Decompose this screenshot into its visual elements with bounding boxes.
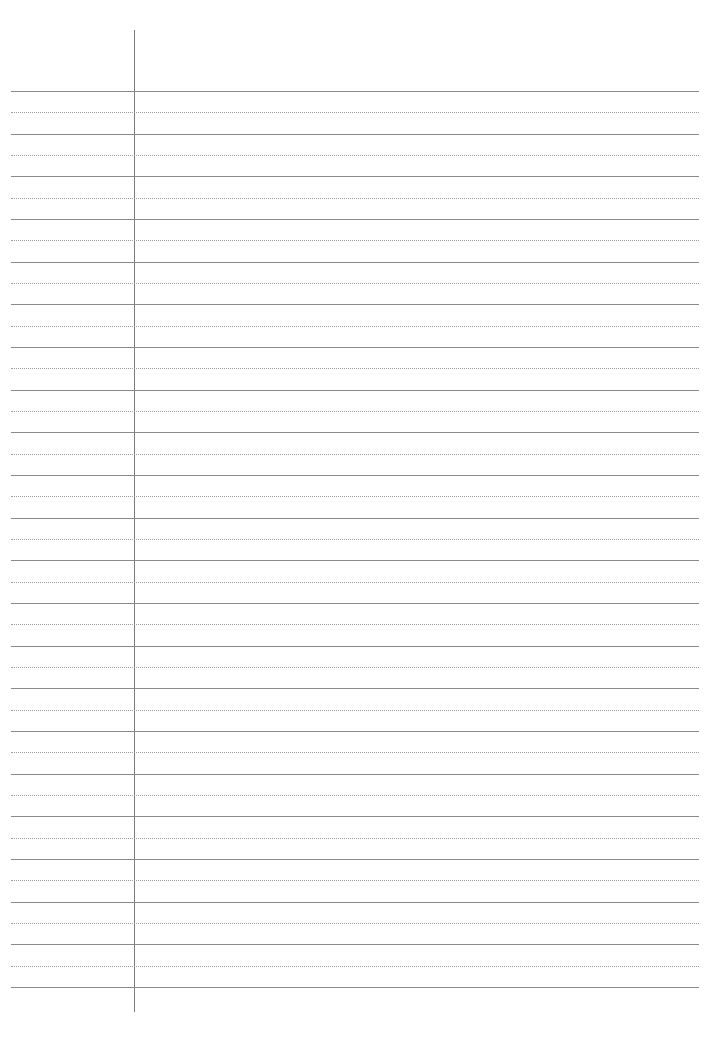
solid-rule-line	[11, 390, 699, 391]
solid-rule-line	[11, 688, 699, 689]
dotted-guide-line	[11, 454, 699, 455]
dotted-guide-line	[11, 198, 699, 199]
dotted-guide-line	[11, 326, 699, 327]
dotted-guide-line	[11, 624, 699, 625]
solid-rule-line	[11, 304, 699, 305]
solid-rule-line	[11, 475, 699, 476]
dotted-guide-line	[11, 838, 699, 839]
dotted-guide-line	[11, 496, 699, 497]
dotted-guide-line	[11, 539, 699, 540]
dotted-guide-line	[11, 752, 699, 753]
solid-rule-line	[11, 944, 699, 945]
solid-rule-line	[11, 560, 699, 561]
lined-paper-page	[0, 0, 719, 1049]
solid-rule-line	[11, 987, 699, 988]
solid-rule-line	[11, 347, 699, 348]
dotted-guide-line	[11, 880, 699, 881]
dotted-guide-line	[11, 112, 699, 113]
solid-rule-line	[11, 518, 699, 519]
solid-rule-line	[11, 176, 699, 177]
solid-rule-line	[11, 603, 699, 604]
dotted-guide-line	[11, 368, 699, 369]
margin-line	[134, 30, 135, 1012]
solid-rule-line	[11, 134, 699, 135]
dotted-guide-line	[11, 283, 699, 284]
solid-rule-line	[11, 91, 699, 92]
solid-rule-line	[11, 774, 699, 775]
solid-rule-line	[11, 219, 699, 220]
dotted-guide-line	[11, 240, 699, 241]
dotted-guide-line	[11, 966, 699, 967]
dotted-guide-line	[11, 667, 699, 668]
dotted-guide-line	[11, 795, 699, 796]
solid-rule-line	[11, 432, 699, 433]
solid-rule-line	[11, 859, 699, 860]
solid-rule-line	[11, 902, 699, 903]
solid-rule-line	[11, 816, 699, 817]
dotted-guide-line	[11, 923, 699, 924]
solid-rule-line	[11, 262, 699, 263]
dotted-guide-line	[11, 710, 699, 711]
dotted-guide-line	[11, 155, 699, 156]
solid-rule-line	[11, 646, 699, 647]
solid-rule-line	[11, 731, 699, 732]
dotted-guide-line	[11, 582, 699, 583]
dotted-guide-line	[11, 411, 699, 412]
